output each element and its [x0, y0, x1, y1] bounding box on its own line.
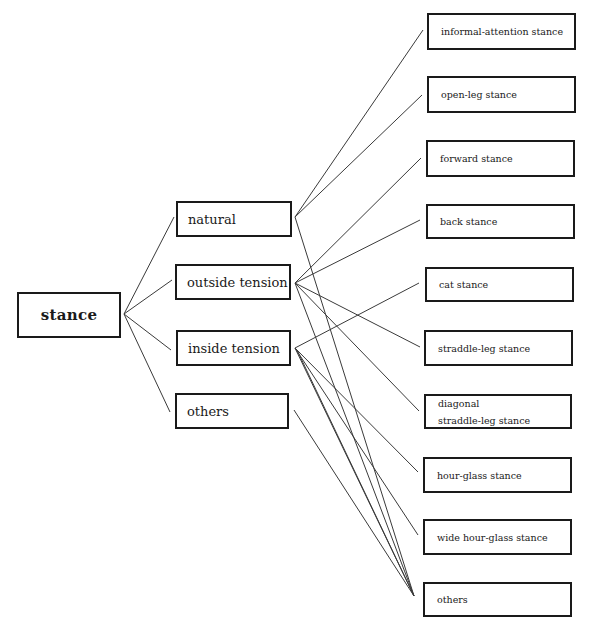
edge-inside-others-b: [297, 350, 414, 596]
node-label: hour-glass stance: [425, 470, 522, 481]
edge-inside-hour-glass: [295, 348, 418, 472]
node-others: others: [175, 393, 289, 429]
node-hour-glass-stance: hour-glass stance: [423, 457, 572, 493]
node-label-line1: diagonal: [426, 395, 479, 412]
node-label: others: [425, 594, 468, 605]
edge-outside-forward: [295, 158, 421, 283]
node-back-stance: back stance: [426, 204, 575, 239]
node-label: straddle-leg stance: [426, 343, 530, 354]
edge-natural-informal-attention: [295, 30, 423, 217]
node-wide-hour-glass-stance: wide hour-glass stance: [423, 519, 572, 555]
node-forward-stance: forward stance: [426, 140, 575, 177]
node-straddle-leg-stance: straddle-leg stance: [424, 330, 573, 366]
edge-stance-natural: [124, 217, 174, 314]
node-cat-stance: cat stance: [425, 267, 574, 302]
edge-stance-inside-tension: [124, 314, 171, 350]
edge-outside-back: [295, 220, 420, 283]
node-diagonal-straddle-leg-stance: diagonal straddle-leg stance: [424, 394, 572, 429]
edge-stance-outside-tension: [124, 280, 172, 314]
node-others-stance: others: [423, 582, 572, 617]
node-label: forward stance: [428, 153, 513, 164]
node-label: stance: [41, 306, 97, 324]
node-stance: stance: [17, 292, 121, 338]
node-label: informal-attention stance: [429, 26, 563, 37]
edge-stance-others: [124, 314, 170, 412]
node-label-line2: straddle-leg stance: [426, 412, 530, 429]
node-outside-tension: outside tension: [175, 264, 291, 300]
edge-outside-diagonal-straddle: [295, 283, 419, 411]
node-label: outside tension: [177, 275, 288, 290]
node-label: natural: [178, 212, 236, 227]
node-label: wide hour-glass stance: [425, 532, 548, 543]
node-open-leg-stance: open-leg stance: [427, 76, 576, 113]
node-inside-tension: inside tension: [176, 330, 291, 366]
edge-natural-open-leg: [295, 95, 422, 217]
node-informal-attention-stance: informal-attention stance: [427, 13, 576, 50]
node-natural: natural: [176, 201, 292, 237]
node-label: open-leg stance: [429, 89, 517, 100]
node-label: inside tension: [178, 341, 280, 356]
node-label: cat stance: [427, 279, 488, 290]
node-label: others: [177, 404, 229, 419]
node-label: back stance: [428, 216, 497, 227]
